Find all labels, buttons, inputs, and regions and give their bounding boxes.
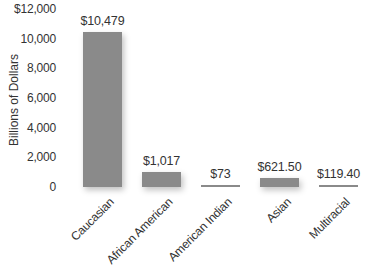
data-label: $10,479	[73, 14, 133, 28]
x-tick-label: Asian	[263, 195, 293, 225]
data-label: $119.40	[309, 167, 369, 181]
data-label: $621.50	[250, 160, 310, 174]
bar-asian	[260, 178, 299, 187]
y-tick-label: 0	[50, 180, 56, 194]
y-tick-label: 2,000	[27, 150, 56, 164]
data-label: $73	[191, 167, 251, 181]
x-tick-label: Multiracial	[306, 195, 353, 242]
bar-multiracial	[319, 185, 358, 187]
bar-caucasian	[83, 32, 122, 187]
x-tick-label: American Indian	[165, 195, 234, 264]
y-tick-label: 10,000	[20, 32, 56, 46]
y-tick-label: 8,000	[27, 61, 56, 75]
y-axis-label: Billions of Dollars	[7, 50, 21, 150]
y-tick-label: 6,000	[27, 91, 56, 105]
bar-american-indian	[201, 185, 240, 187]
x-tick-label: Caucasian	[68, 195, 117, 244]
y-tick-label: $12,000	[14, 2, 56, 16]
y-tick-label: 4,000	[27, 121, 56, 135]
bar-african-american	[142, 172, 181, 187]
data-label: $1,017	[132, 154, 192, 168]
